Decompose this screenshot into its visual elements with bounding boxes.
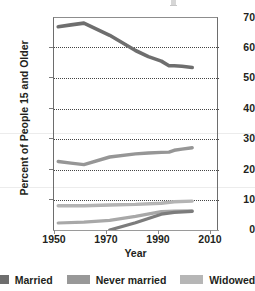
x-tick-label-1970: 1970 — [86, 233, 126, 245]
x-tick-label-1990: 1990 — [138, 233, 178, 245]
x-tick-label-2010: 2010 — [190, 233, 230, 245]
y-tick-label-20: 20 — [229, 164, 255, 174]
y-tick-label-0: 0 — [229, 224, 255, 234]
y-tick-label-50: 50 — [229, 72, 255, 82]
y-tick-label-70: 70 — [229, 12, 255, 22]
legend-label-widowed: Widowed — [209, 274, 255, 286]
legend-item-never-married: Never married — [67, 274, 181, 286]
legend-item-widowed: Widowed — [180, 274, 255, 286]
chart-legend: Married Never married Widowed — [0, 268, 255, 291]
legend-label-married: Married — [15, 274, 53, 286]
x-tick-label-1950: 1950 — [34, 233, 74, 245]
y-axis-title: Percent of People 15 and Older — [18, 18, 30, 218]
y-tick-label-30: 30 — [229, 133, 255, 143]
legend-swatch-widowed — [180, 275, 203, 284]
x-axis-title: Year — [53, 247, 218, 259]
top-edge-artifact — [171, 0, 176, 6]
series-line-widowed — [58, 201, 192, 206]
data-series-layer — [53, 17, 218, 230]
y-tick-label-60: 60 — [229, 42, 255, 52]
y-tick-label-40: 40 — [229, 103, 255, 113]
legend-swatch-never-married — [67, 275, 90, 284]
series-line-married — [58, 23, 192, 67]
legend-label-never-married: Never married — [96, 274, 167, 286]
chart-container: Percent of People 15 and Older 70 60 50 … — [0, 0, 255, 291]
series-line-never-married — [58, 148, 192, 165]
legend-swatch-married — [0, 275, 9, 284]
y-tick-label-10: 10 — [229, 194, 255, 204]
legend-item-married: Married — [0, 274, 67, 286]
